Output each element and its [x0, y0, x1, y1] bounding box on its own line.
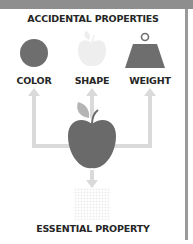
diagram-canvas — [0, 0, 193, 244]
weight-icon — [125, 34, 165, 69]
essential-property-title: ESSENTIAL PROPERTY — [0, 223, 186, 234]
faded-apple-icon — [78, 31, 106, 66]
circle-icon — [20, 39, 48, 67]
arrow-to-weight — [112, 95, 150, 146]
label-color: COLOR — [4, 75, 64, 86]
label-shape: SHAPE — [62, 75, 122, 86]
label-weight: WEIGHT — [120, 75, 180, 86]
grid-square-icon — [74, 188, 110, 220]
